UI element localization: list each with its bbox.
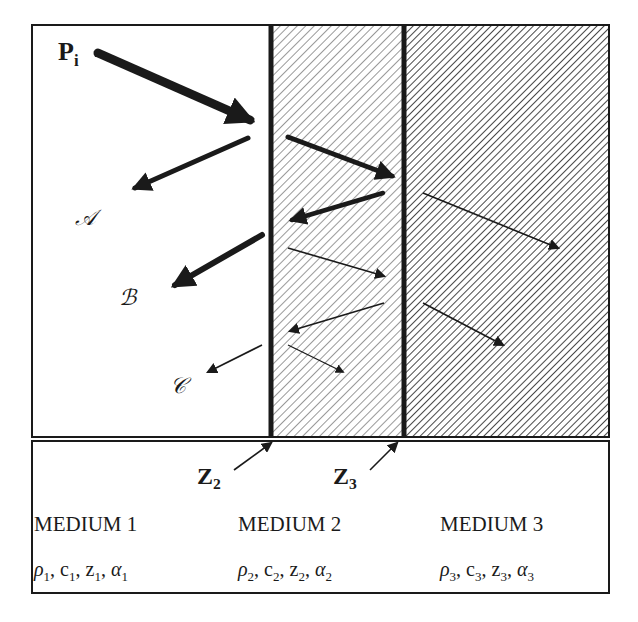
medium-2-region <box>272 26 404 436</box>
c-3: c <box>466 558 475 580</box>
z3-sub: 3 <box>349 475 357 492</box>
reflection-label-a: 𝒜 <box>75 205 96 230</box>
z3-main: Z <box>333 463 349 489</box>
alpha-3-sub: 3 <box>527 569 534 584</box>
alpha-1: α <box>111 558 122 580</box>
alpha-2-sub: 2 <box>325 569 332 584</box>
rho-2-sub: 2 <box>248 569 255 584</box>
alpha-1-sub: 1 <box>121 569 128 584</box>
interface-z3-label: Z3 <box>333 463 357 490</box>
rho-3: ρ <box>440 558 450 580</box>
alpha-2: α <box>315 558 326 580</box>
incident-label: Pi <box>58 37 79 67</box>
c-1-sub: 1 <box>69 569 76 584</box>
medium-3-name: MEDIUM 3 <box>440 512 543 537</box>
interface-z2-label: Z2 <box>197 463 221 490</box>
medium-2-name: MEDIUM 2 <box>238 512 341 537</box>
medium-3-region <box>404 26 608 436</box>
c-3-sub: 3 <box>475 569 482 584</box>
reflection-label-b: ℬ <box>119 285 136 310</box>
z-3-sub: 3 <box>500 569 507 584</box>
medium-1-properties: ρ1, c1, z1, α1 <box>34 558 128 581</box>
z-1-sub: 1 <box>94 569 101 584</box>
medium-3-properties: ρ3, c3, z3, α3 <box>440 558 534 581</box>
rho-2: ρ <box>238 558 248 580</box>
rho-1: ρ <box>34 558 44 580</box>
incident-label-main: P <box>58 37 74 66</box>
c-2-sub: 2 <box>273 569 280 584</box>
c-1: c <box>60 558 69 580</box>
z-2-sub: 2 <box>298 569 305 584</box>
reflection-label-c: 𝒞 <box>170 373 186 398</box>
c-2: c <box>264 558 273 580</box>
rho-1-sub: 1 <box>44 569 51 584</box>
alpha-3: α <box>517 558 528 580</box>
z2-sub: 2 <box>213 475 221 492</box>
incident-label-sub: i <box>74 51 79 70</box>
medium-2-properties: ρ2, c2, z2, α2 <box>238 558 332 581</box>
medium-1-name: MEDIUM 1 <box>34 512 137 537</box>
z2-main: Z <box>197 463 213 489</box>
rho-3-sub: 3 <box>450 569 457 584</box>
